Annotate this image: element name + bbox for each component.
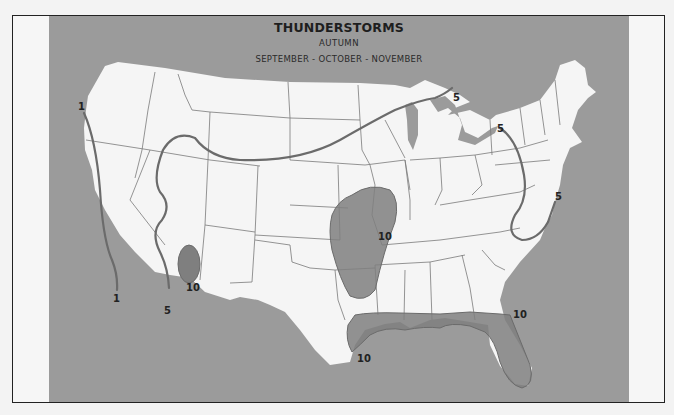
label-5-ontario: 5: [497, 123, 504, 134]
label-1-north: 1: [78, 101, 85, 112]
area-10-arizona: [178, 245, 200, 283]
us-map: 1 1 5 5 5 5 10 10 10 10: [0, 0, 674, 415]
label-5-superior: 5: [453, 92, 460, 103]
label-10-georgia: 10: [513, 309, 527, 320]
label-5-arizona: 5: [164, 305, 171, 316]
label-1-south: 1: [113, 293, 120, 304]
label-10-arizona: 10: [186, 282, 200, 293]
label-5-chesapeake: 5: [555, 191, 562, 202]
label-10-plains: 10: [378, 231, 392, 242]
label-10-texas: 10: [357, 353, 371, 364]
area-10-gulf-florida: [347, 312, 531, 388]
